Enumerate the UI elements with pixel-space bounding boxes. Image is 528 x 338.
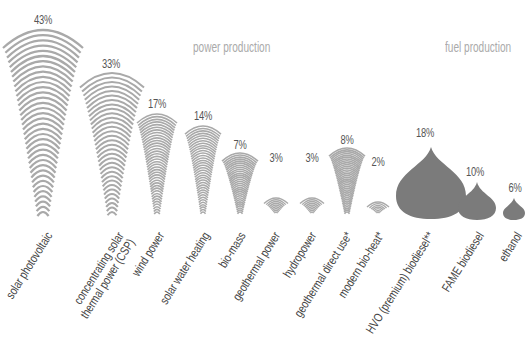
- fan-csp: [80, 73, 144, 215]
- drop-ethanol: [503, 198, 525, 220]
- value-label: 2%: [371, 154, 384, 169]
- value-label: 8%: [340, 132, 353, 147]
- value-label: 43%: [34, 12, 52, 27]
- fan-wind-power: [137, 114, 177, 214]
- value-label: 3%: [269, 150, 282, 165]
- fan-solar-photovoltaic: [3, 30, 83, 216]
- value-label: 17%: [148, 96, 166, 111]
- value-label: 6%: [508, 180, 521, 195]
- value-label: 3%: [305, 150, 318, 165]
- value-label: 14%: [194, 108, 212, 123]
- fan-solar-water-heating: [185, 126, 221, 214]
- value-label: 10%: [466, 164, 484, 179]
- group-label-fuel: fuel production: [445, 39, 511, 55]
- fan-bio-mass: [222, 153, 258, 214]
- value-label: 7%: [233, 137, 246, 152]
- fan-modern-bio-heat: [367, 202, 389, 213]
- value-label: 18%: [416, 125, 434, 140]
- value-label: 33%: [102, 56, 120, 71]
- fan-geothermal-direct-use: [329, 148, 365, 214]
- fan-geothermal-power: [264, 198, 288, 213]
- drop-hvo-biodiesel: [396, 147, 466, 219]
- fan-hydropower: [300, 198, 324, 213]
- group-label-power: power production: [193, 39, 270, 55]
